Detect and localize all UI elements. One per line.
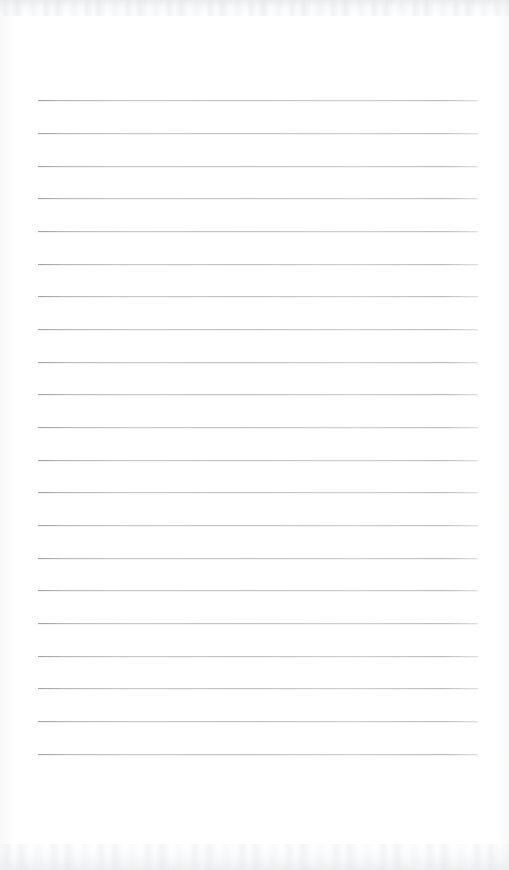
writing-row[interactable]: [38, 727, 478, 754]
rule-line: [38, 623, 478, 624]
rule-line: [38, 525, 478, 526]
rule-line: [38, 492, 478, 493]
rule-line: [38, 329, 478, 330]
rule-line: [38, 394, 478, 395]
rule-line: [38, 362, 478, 363]
writing-row[interactable]: [38, 106, 478, 133]
writing-row[interactable]: [38, 694, 478, 721]
writing-row[interactable]: [38, 335, 478, 362]
rule-line: [38, 656, 478, 657]
rule-line: [38, 296, 478, 297]
writing-row[interactable]: [38, 367, 478, 394]
notepad-page: [0, 0, 509, 870]
writing-row[interactable]: [38, 498, 478, 525]
rule-line: [38, 100, 478, 101]
writing-row[interactable]: [38, 465, 478, 492]
writing-row[interactable]: [38, 139, 478, 166]
rule-line: [38, 721, 478, 722]
writing-row[interactable]: [38, 171, 478, 198]
writing-row[interactable]: [38, 73, 478, 100]
writing-row[interactable]: [38, 563, 478, 590]
writing-row[interactable]: [38, 531, 478, 558]
rule-line: [38, 427, 478, 428]
writing-row[interactable]: [38, 237, 478, 264]
rule-line: [38, 688, 478, 689]
writing-row[interactable]: [38, 269, 478, 296]
rule-line: [38, 590, 478, 591]
rule-line: [38, 231, 478, 232]
writing-row[interactable]: [38, 400, 478, 427]
writing-row[interactable]: [38, 204, 478, 231]
rule-line: [38, 460, 478, 461]
rule-line: [38, 754, 478, 755]
writing-row[interactable]: [38, 661, 478, 688]
ruled-lines-area: [0, 0, 509, 870]
rule-line: [38, 133, 478, 134]
writing-row[interactable]: [38, 302, 478, 329]
rule-line: [38, 198, 478, 199]
rule-line: [38, 264, 478, 265]
rule-line: [38, 558, 478, 559]
writing-row[interactable]: [38, 596, 478, 623]
writing-row[interactable]: [38, 629, 478, 656]
writing-row[interactable]: [38, 433, 478, 460]
rule-line: [38, 166, 478, 167]
